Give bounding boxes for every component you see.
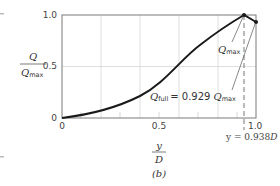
x-tick-1: 1.0 xyxy=(248,121,263,131)
svg-text:y: y xyxy=(155,140,162,151)
svg-text:Qmax: Qmax xyxy=(21,67,44,79)
panel-label: (b) xyxy=(152,168,166,179)
x-axis-label: y D xyxy=(152,140,166,165)
y-tick-05: 0.5 xyxy=(43,61,57,71)
chart: 1.0 0.5 0 0 0.5 1.0 Q Qmax y D (b) Qmax … xyxy=(0,0,280,186)
svg-text:D: D xyxy=(154,154,163,165)
qfull-point xyxy=(254,20,258,24)
edge-mark xyxy=(0,156,4,158)
y-tick-1: 1.0 xyxy=(43,10,58,20)
plot-area xyxy=(62,13,258,130)
svg-text:Q: Q xyxy=(29,51,37,62)
qmax-point xyxy=(242,13,246,17)
qmax-annotation: Qmax xyxy=(218,44,241,56)
qfull-annotation: Qfull= 0.929Qmax xyxy=(150,91,236,103)
minor-ticks xyxy=(81,112,237,118)
edge-mark xyxy=(0,13,4,15)
y-tick-0: 0 xyxy=(51,113,57,123)
y0938-annotation: y = 0.938D xyxy=(225,132,277,142)
x-tick-0: 0 xyxy=(59,121,65,131)
x-tick-05: 0.5 xyxy=(152,121,166,131)
